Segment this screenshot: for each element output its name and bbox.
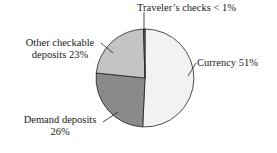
label-currency: Currency 51% xyxy=(197,57,258,69)
label-other-line2: deposits 23% xyxy=(20,49,100,61)
label-other-checkable: Other checkable deposits 23% xyxy=(20,37,100,61)
pie-slices xyxy=(96,29,194,127)
label-demand-line1: Demand deposits xyxy=(18,114,102,126)
pie-slice-demand-deposits xyxy=(96,73,145,127)
label-demand-line2: 26% xyxy=(18,126,102,138)
label-demand-deposits: Demand deposits 26% xyxy=(18,114,102,138)
label-other-line1: Other checkable xyxy=(20,37,100,49)
label-travelers-checks: Traveler’s checks < 1% xyxy=(137,2,236,14)
pie-slice-other-checkable-deposits xyxy=(96,29,145,78)
pie-slice-currency xyxy=(143,29,194,127)
